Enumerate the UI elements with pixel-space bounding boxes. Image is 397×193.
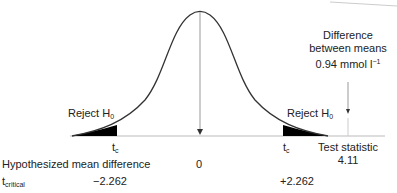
- hypothesized-mean-difference-label: Hypothesized mean difference: [2, 158, 150, 171]
- t-critical-left-value: −2.262: [93, 175, 127, 188]
- tc-left-label: tc: [112, 141, 119, 157]
- reject-left-label: Reject H0: [68, 107, 114, 123]
- t-critical-right-value: +2.262: [280, 175, 314, 188]
- decorative-line: [330, 2, 397, 6]
- mean-arrow-icon: [197, 129, 203, 135]
- reject-right-label: Reject H0: [287, 107, 333, 123]
- difference-arrow-icon: [346, 109, 350, 114]
- t-critical-label: tcritical: [2, 175, 25, 191]
- difference-label: Difference between means 0.94 mmol l−1: [308, 29, 388, 71]
- hypothesized-mean-difference-value: 0: [196, 158, 202, 171]
- tc-right-label: tc: [283, 141, 290, 157]
- test-statistic-label: Test statistic 4.11: [308, 141, 388, 167]
